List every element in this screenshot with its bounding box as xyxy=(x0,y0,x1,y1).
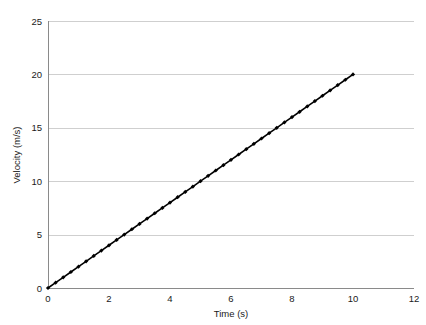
x-tick-label-12: 12 xyxy=(409,293,420,304)
y-tick-label-0: 0 xyxy=(37,283,42,294)
x-tick-label-10: 10 xyxy=(348,293,359,304)
y-axis-title: Velocity (m/s) xyxy=(11,126,22,183)
x-tick-label-6: 6 xyxy=(228,293,233,304)
chart-canvas: 0510152025 024681012 Time (s) Velocity (… xyxy=(0,0,426,325)
y-tick-label-10: 10 xyxy=(31,176,42,187)
x-axis-title: Time (s) xyxy=(214,308,248,319)
x-tick-label-0: 0 xyxy=(45,293,50,304)
y-tick-label-15: 15 xyxy=(31,122,42,133)
x-tick-label-2: 2 xyxy=(106,293,111,304)
x-tick-label-8: 8 xyxy=(289,293,294,304)
x-tick-label-4: 4 xyxy=(167,293,172,304)
y-tick-label-5: 5 xyxy=(37,229,42,240)
velocity-time-chart: 0510152025 024681012 Time (s) Velocity (… xyxy=(0,0,426,325)
y-tick-label-25: 25 xyxy=(31,16,42,27)
y-tick-label-20: 20 xyxy=(31,69,42,80)
